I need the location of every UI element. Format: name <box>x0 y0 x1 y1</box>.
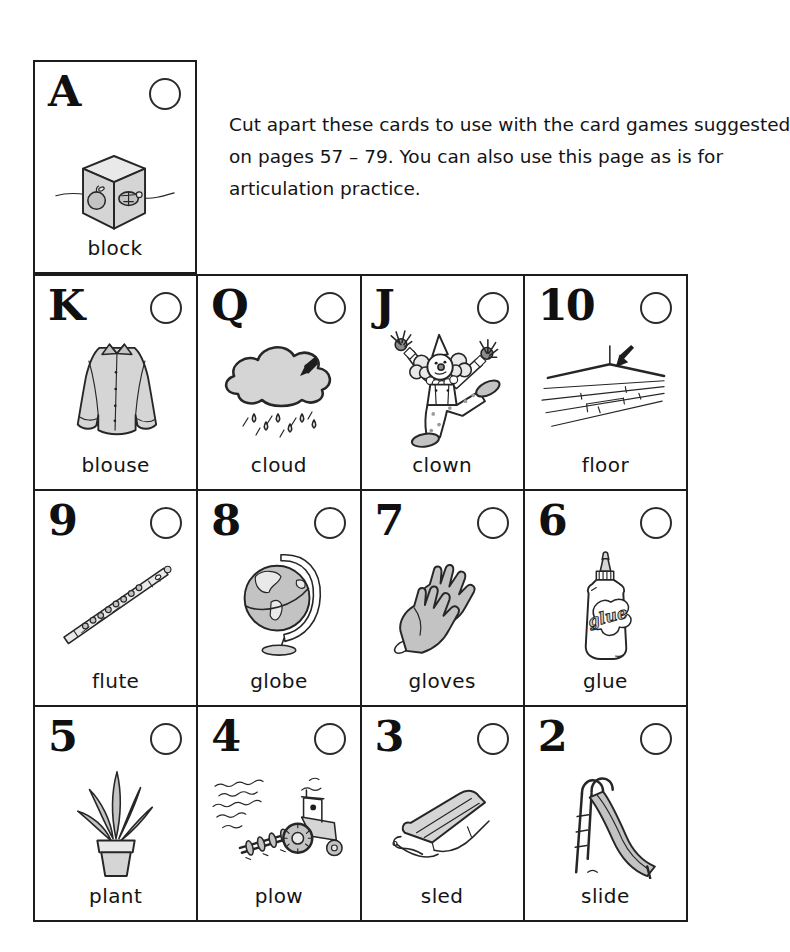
card-rank: A <box>48 70 79 113</box>
card-label: sled <box>362 884 523 908</box>
card-sled: 3 sled <box>361 706 524 921</box>
card-rank: K <box>48 284 83 327</box>
punch-circle <box>314 507 346 539</box>
glue-icon: glue <box>525 543 686 664</box>
plant-icon <box>35 759 196 880</box>
instructions-line: articulation practice. <box>229 173 790 205</box>
block-icon <box>35 146 195 230</box>
card-rank: 9 <box>48 499 76 542</box>
card-block: A block <box>33 60 197 274</box>
card-plant: 5 plant <box>34 706 197 921</box>
card-rank: 8 <box>211 499 239 542</box>
card-clown: J <box>361 275 524 490</box>
card-rank: 2 <box>538 715 566 758</box>
cloud-icon <box>198 328 359 449</box>
punch-circle <box>640 723 672 755</box>
instructions-line: on pages 57 – 79. You can also use this … <box>229 141 790 173</box>
card-label: floor <box>525 453 686 477</box>
punch-circle <box>149 78 181 110</box>
card-label: cloud <box>198 453 359 477</box>
plow-icon <box>198 759 359 880</box>
card-rank: 5 <box>48 715 76 758</box>
punch-circle <box>150 292 182 324</box>
punch-circle <box>640 292 672 324</box>
punch-circle <box>477 507 509 539</box>
card-flute: 9 flute <box>34 490 197 705</box>
card-label: plant <box>35 884 196 908</box>
instructions-text: Cut apart these cards to use with the ca… <box>229 109 790 205</box>
card-label: block <box>35 236 195 260</box>
floor-icon <box>525 328 686 449</box>
card-rank: Q <box>211 284 246 327</box>
punch-circle <box>477 723 509 755</box>
card-blouse: K blouse <box>34 275 197 490</box>
card-slide: 2 slide <box>524 706 687 921</box>
punch-circle <box>314 723 346 755</box>
sled-icon <box>362 759 523 880</box>
flute-icon <box>35 543 196 664</box>
punch-circle <box>150 723 182 755</box>
card-plow: 4 <box>197 706 360 921</box>
card-rank: 10 <box>538 284 594 327</box>
slide-icon <box>525 759 686 880</box>
card-rank: 4 <box>211 715 239 758</box>
clown-icon <box>362 328 523 449</box>
card-label: globe <box>198 669 359 693</box>
card-label: slide <box>525 884 686 908</box>
punch-circle <box>477 292 509 324</box>
card-label: flute <box>35 669 196 693</box>
card-label: gloves <box>362 669 523 693</box>
card-grid: K blouse Q <box>33 274 688 922</box>
card-label: glue <box>525 669 686 693</box>
card-rank: 7 <box>375 499 403 542</box>
gloves-icon <box>362 543 523 664</box>
blouse-icon <box>35 328 196 449</box>
globe-icon <box>198 543 359 664</box>
card-gloves: 7 gloves <box>361 490 524 705</box>
card-label: plow <box>198 884 359 908</box>
card-rank: J <box>375 284 393 327</box>
card-rank: 6 <box>538 499 566 542</box>
card-glue: 6 glue glue <box>524 490 687 705</box>
card-floor: 10 floor <box>524 275 687 490</box>
card-label: clown <box>362 453 523 477</box>
instructions-line: Cut apart these cards to use with the ca… <box>229 109 790 141</box>
card-cloud: Q clo <box>197 275 360 490</box>
punch-circle <box>640 507 672 539</box>
card-label: blouse <box>35 453 196 477</box>
card-rank: 3 <box>375 715 403 758</box>
punch-circle <box>314 292 346 324</box>
punch-circle <box>150 507 182 539</box>
card-globe: 8 globe <box>197 490 360 705</box>
